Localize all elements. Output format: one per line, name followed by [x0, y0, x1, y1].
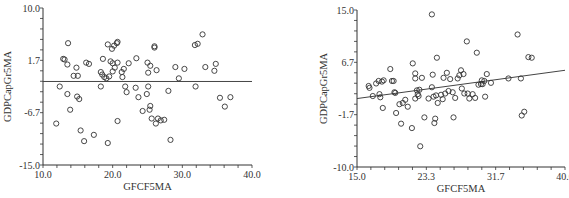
data-point — [459, 86, 464, 91]
data-point — [453, 95, 458, 100]
data-point — [57, 84, 62, 89]
data-point — [394, 110, 399, 115]
data-point — [133, 85, 138, 90]
data-point — [54, 121, 59, 126]
data-point — [213, 61, 218, 66]
data-point — [464, 39, 469, 44]
x-tick-label: 23.3 — [418, 171, 436, 182]
data-point — [134, 56, 139, 61]
data-point — [105, 140, 110, 145]
data-point — [413, 71, 418, 76]
data-point — [203, 64, 208, 69]
data-point — [228, 95, 233, 100]
x-tick-label: 15.0 — [348, 171, 366, 182]
data-point — [380, 105, 385, 110]
y-tick-label: -10.0 — [333, 162, 354, 173]
y-tick-label: -1.7 — [338, 109, 354, 120]
data-point — [451, 115, 456, 120]
x-tick-label: 40.0 — [243, 169, 261, 180]
data-point — [105, 42, 110, 47]
data-point — [140, 108, 145, 113]
data-point — [474, 50, 479, 55]
data-point — [144, 91, 149, 96]
data-point — [200, 32, 205, 37]
data-point — [519, 113, 524, 118]
data-point — [98, 84, 103, 89]
data-point — [440, 97, 445, 102]
data-point — [448, 76, 453, 81]
data-point — [367, 85, 372, 90]
data-point — [100, 56, 105, 61]
data-point — [435, 100, 440, 105]
x-tick-label: 31.7 — [487, 171, 505, 182]
data-point — [146, 84, 151, 89]
data-point — [173, 64, 178, 69]
data-point — [455, 76, 460, 81]
scatter-plot-left: 10.020.030.040.010.01.7-6.7-15.0GFCF5MAG… — [0, 0, 285, 198]
data-point — [429, 12, 434, 17]
data-point — [145, 60, 150, 65]
data-point — [65, 91, 70, 96]
data-point — [212, 68, 217, 73]
data-point — [483, 94, 488, 99]
data-point — [426, 96, 431, 101]
y-tick-label: 1.7 — [28, 55, 41, 66]
data-point — [217, 95, 222, 100]
data-point — [430, 72, 435, 77]
y-tick-label: 10.0 — [23, 3, 41, 14]
data-point — [182, 66, 187, 71]
data-point — [91, 132, 96, 137]
data-point — [148, 63, 153, 68]
x-axis-label: GFCF5MA — [123, 181, 172, 192]
data-point — [444, 70, 449, 75]
data-point — [168, 137, 173, 142]
data-point — [146, 70, 151, 75]
x-tick-label: 40.0 — [556, 171, 569, 182]
x-axis-label: GFCF5MA — [437, 183, 486, 194]
data-point — [379, 79, 384, 84]
data-point — [115, 60, 120, 65]
y-tick-label: -15.0 — [19, 160, 40, 171]
scatter-chart-left: 10.020.030.040.010.01.7-6.7-15.0GFCF5MAG… — [0, 0, 285, 198]
data-point — [381, 78, 386, 83]
data-point — [422, 115, 427, 120]
data-point — [484, 71, 489, 76]
data-point — [126, 61, 131, 66]
data-point — [120, 74, 125, 79]
data-point — [413, 76, 418, 81]
data-point — [166, 88, 171, 93]
data-point — [409, 125, 414, 130]
data-point — [82, 139, 87, 144]
x-tick-label: 30.0 — [174, 169, 192, 180]
data-point — [410, 61, 415, 66]
data-point — [473, 95, 478, 100]
data-point — [388, 66, 393, 71]
y-tick-label: 6.7 — [342, 57, 355, 68]
data-point — [162, 117, 167, 122]
data-point — [222, 104, 227, 109]
data-point — [488, 80, 493, 85]
data-point — [176, 76, 181, 81]
data-point — [123, 84, 128, 89]
data-point — [193, 84, 198, 89]
data-point — [136, 95, 141, 100]
data-point — [124, 90, 129, 95]
data-point — [434, 55, 439, 60]
data-point — [149, 116, 154, 121]
scatter-plot-right: 15.023.331.740.015.06.7-1.7-10.0GFCF5MAG… — [285, 0, 569, 198]
y-tick-label: 15.0 — [337, 5, 355, 16]
data-point — [115, 118, 120, 123]
data-point — [78, 128, 83, 133]
data-point — [148, 103, 153, 108]
data-point — [465, 91, 470, 96]
data-point — [74, 65, 79, 70]
data-point — [522, 109, 527, 114]
data-point — [405, 104, 410, 109]
data-point — [418, 144, 423, 149]
x-tick-label: 10.0 — [34, 169, 52, 180]
data-point — [441, 75, 446, 80]
data-point — [65, 41, 70, 46]
data-point — [68, 107, 73, 112]
scatter-chart-right: 15.023.331.740.015.06.7-1.7-10.0GFCF5MAG… — [285, 0, 569, 198]
y-axis-label: GDPCapGr5MA — [318, 53, 329, 125]
